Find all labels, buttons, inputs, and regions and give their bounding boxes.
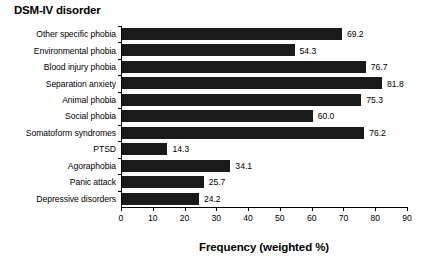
x-axis-tick: [153, 207, 154, 211]
x-axis-tick: [185, 207, 186, 211]
category-label: PTSD: [93, 144, 116, 154]
bar-row: PTSD14.3: [121, 141, 407, 157]
bar: [122, 160, 230, 172]
y-axis-tick: [118, 59, 121, 60]
bar-row: Blood injury phobia76.7: [121, 59, 407, 75]
category-label: Separation anxiety: [46, 79, 116, 89]
category-label: Animal phobia: [62, 95, 116, 105]
bar-row: Agoraphobia34.1: [121, 158, 407, 174]
x-axis-tick-label: 40: [243, 213, 253, 223]
x-axis-tick-label: 80: [370, 213, 380, 223]
bar: [122, 28, 342, 40]
bar: [122, 44, 295, 56]
bar: [122, 193, 199, 205]
bar: [122, 77, 382, 89]
x-axis-tick-label: 20: [180, 213, 190, 223]
bar-row: Panic attack25.7: [121, 174, 407, 190]
category-label: Other specific phobia: [36, 29, 116, 39]
bar-row: Other specific phobia69.2: [121, 26, 407, 42]
bar: [122, 176, 204, 188]
x-axis-tick: [248, 207, 249, 211]
x-axis-tick: [280, 207, 281, 211]
plot-area: Other specific phobia69.2Environmental p…: [121, 26, 407, 207]
y-axis-tick: [118, 108, 121, 109]
y-axis-tick: [118, 191, 121, 192]
y-axis-tick: [118, 141, 121, 142]
category-label: Somatoform syndromes: [26, 128, 116, 138]
bar-row: Environmental phobia54.3: [121, 42, 407, 58]
bar-value-label: 75.3: [366, 95, 383, 105]
y-axis-tick: [118, 174, 121, 175]
x-axis-tick-label: 60: [307, 213, 317, 223]
x-axis-tick: [121, 207, 122, 211]
category-label: Agoraphobia: [68, 161, 116, 171]
bar-value-label: 76.7: [371, 62, 388, 72]
y-axis-title: DSM-IV disorder: [14, 4, 100, 16]
x-axis-tick: [216, 207, 217, 211]
x-axis-tick: [407, 207, 408, 211]
bar: [122, 110, 313, 122]
y-axis-tick: [118, 42, 121, 43]
x-axis-tick: [375, 207, 376, 211]
x-axis-tick-label: 30: [212, 213, 222, 223]
bar: [122, 61, 366, 73]
x-axis-tick-label: 90: [402, 213, 412, 223]
category-label: Depressive disorders: [36, 194, 116, 204]
bar-chart: DSM-IV disorder Other specific phobia69.…: [0, 0, 431, 267]
category-label: Blood injury phobia: [44, 62, 116, 72]
bar-value-label: 14.3: [172, 144, 189, 154]
x-axis-tick: [343, 207, 344, 211]
bar-value-label: 54.3: [300, 46, 317, 56]
y-axis-tick: [118, 158, 121, 159]
x-axis-tick-label: 50: [275, 213, 285, 223]
x-axis-tick-label: 0: [119, 213, 124, 223]
category-label: Panic attack: [70, 177, 116, 187]
category-label: Environmental phobia: [34, 46, 116, 56]
bar-row: Animal phobia75.3: [121, 92, 407, 108]
bar: [122, 127, 364, 139]
y-axis-tick: [118, 75, 121, 76]
y-axis-tick: [118, 26, 121, 27]
x-axis-tick-label: 10: [148, 213, 158, 223]
y-axis-tick: [118, 125, 121, 126]
bar-row: Depressive disorders24.2: [121, 191, 407, 207]
bar-row: Somatoform syndromes76.2: [121, 125, 407, 141]
bar: [122, 143, 167, 155]
x-axis-tick: [312, 207, 313, 211]
bar-value-label: 69.2: [347, 29, 364, 39]
x-axis-line: [121, 207, 407, 208]
category-label: Social phobia: [65, 111, 116, 121]
bar: [122, 94, 361, 106]
bar-row: Social phobia60.0: [121, 108, 407, 124]
x-axis-tick-label: 70: [339, 213, 349, 223]
bar-value-label: 34.1: [235, 161, 252, 171]
bar-value-label: 76.2: [369, 128, 386, 138]
bar-value-label: 24.2: [204, 194, 221, 204]
bar-value-label: 60.0: [318, 111, 335, 121]
x-axis-title: Frequency (weighted %): [121, 241, 407, 253]
bar-value-label: 81.8: [387, 79, 404, 89]
y-axis-tick: [118, 92, 121, 93]
bar-row: Separation anxiety81.8: [121, 75, 407, 91]
bar-value-label: 25.7: [209, 177, 226, 187]
